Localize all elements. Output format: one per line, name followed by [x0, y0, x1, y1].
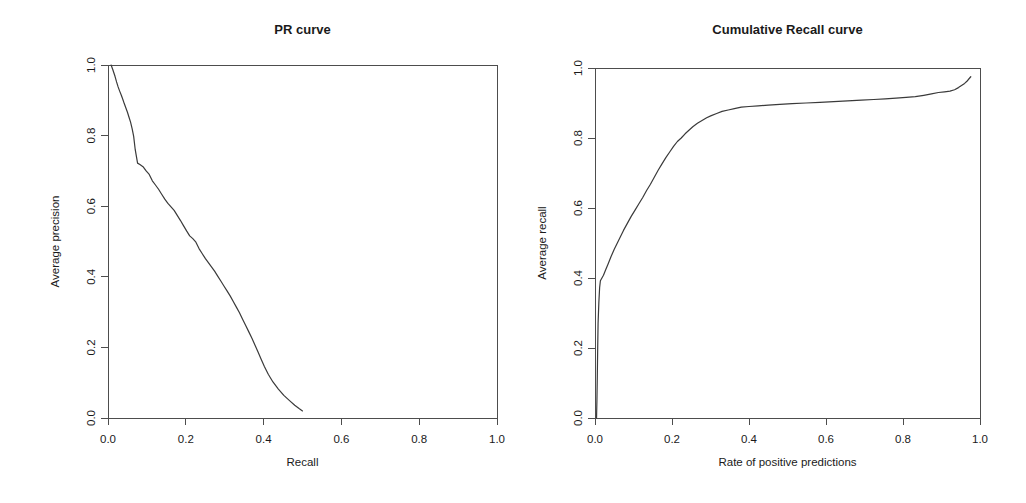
x-axis-tick-label: 0.2	[664, 433, 680, 445]
x-axis-tick-label: 0.2	[178, 433, 194, 445]
data-curve	[111, 65, 302, 411]
y-axis-tick-label: 0.8	[85, 128, 97, 144]
y-axis-tick-label: 0.4	[572, 269, 584, 286]
cumulative-recall-curve-plot: Cumulative Recall curve0.00.20.40.60.81.…	[513, 0, 1026, 503]
y-axis-tick-label: 1.0	[85, 57, 97, 73]
y-axis-tick-label: 0.0	[85, 410, 97, 426]
pr-curve-plot: PR curve0.00.20.40.60.81.00.00.20.40.60.…	[0, 0, 513, 503]
x-axis-tick-label: 1.0	[972, 433, 988, 445]
y-axis-title: Average recall	[536, 206, 548, 279]
figure-canvas: PR curve0.00.20.40.60.81.00.00.20.40.60.…	[0, 0, 1026, 503]
y-axis-tick-label: 0.0	[572, 410, 584, 426]
x-axis-tick-label: 0.4	[741, 433, 758, 445]
plot-title: PR curve	[274, 22, 330, 37]
x-axis-tick-label: 0.6	[818, 433, 834, 445]
x-axis-tick-label: 1.0	[489, 433, 505, 445]
y-axis-tick-label: 0.4	[85, 268, 97, 285]
x-axis-title: Recall	[287, 456, 319, 468]
x-axis-tick-label: 0.6	[333, 433, 349, 445]
y-axis-tick-label: 0.2	[572, 340, 584, 356]
x-axis-tick-label: 0.8	[895, 433, 911, 445]
plot-frame	[108, 65, 497, 418]
plot-title: Cumulative Recall curve	[712, 22, 862, 37]
chart-panel-pr-curve: PR curve0.00.20.40.60.81.00.00.20.40.60.…	[0, 0, 513, 503]
plot-frame	[595, 68, 980, 418]
y-axis-tick-label: 0.2	[85, 339, 97, 355]
y-axis-tick-label: 0.6	[572, 200, 584, 216]
x-axis-tick-label: 0.0	[587, 433, 603, 445]
chart-panel-cumulative-recall-curve: Cumulative Recall curve0.00.20.40.60.81.…	[513, 0, 1026, 503]
y-axis-tick-label: 0.6	[85, 198, 97, 214]
y-axis-tick-label: 1.0	[572, 60, 584, 76]
y-axis-title: Average precision	[49, 196, 61, 288]
x-axis-title: Rate of positive predictions	[718, 456, 856, 468]
x-axis-tick-label: 0.4	[256, 433, 273, 445]
x-axis-tick-label: 0.0	[100, 433, 116, 445]
x-axis-tick-label: 0.8	[411, 433, 427, 445]
data-curve	[597, 77, 971, 418]
y-axis-tick-label: 0.8	[572, 130, 584, 146]
